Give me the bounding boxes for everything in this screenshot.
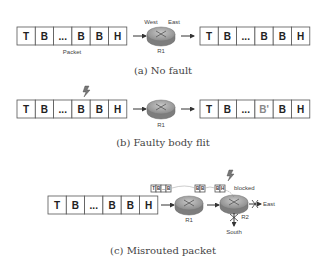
flit-label: H (297, 104, 304, 115)
flit-label: H (297, 31, 304, 42)
router-label-r1-c: R1 (185, 217, 193, 223)
buffer-3: BH (215, 185, 225, 192)
flit-label: B (108, 200, 115, 211)
buffer-link-2 (205, 187, 215, 188)
flit-label: H (114, 31, 121, 42)
flit-label: H (145, 200, 152, 211)
west-label: West (144, 19, 158, 25)
flit-label: B (96, 104, 103, 115)
packet-a-output: TB...BBH (200, 27, 310, 45)
router-label-r1-a: R1 (157, 48, 165, 54)
panel-b: TB...BBH R1 TB...B'BH (b) Faulty body fl… (17, 86, 310, 148)
east-label-c: East (263, 201, 275, 207)
south-label: South (226, 229, 242, 235)
flit-label: B (224, 31, 231, 42)
flit-label: B' (259, 104, 269, 115)
flit-label: B (77, 31, 84, 42)
packet-label: Packet (63, 49, 82, 55)
flit-label: B (279, 31, 286, 42)
router-r1-a (147, 27, 175, 46)
flit-label: B (77, 104, 84, 115)
flit-label: T (23, 31, 29, 42)
router-label-r2-c: R2 (241, 214, 249, 220)
east-label: East (168, 19, 180, 25)
flit-label: T (23, 104, 29, 115)
flit-label: B (96, 31, 103, 42)
flit-label: ... (242, 31, 251, 42)
flit-label: B (260, 31, 267, 42)
blocked-label: blocked (234, 185, 255, 191)
packet-a-input: TB...BBH (17, 27, 127, 45)
buffer-label: .. (162, 186, 165, 191)
flit-label: H (114, 104, 121, 115)
router-r1-c (175, 196, 203, 215)
flit-label: ... (90, 200, 99, 211)
flit-label: T (206, 104, 212, 115)
packet-b-output: TB...B'BH (200, 100, 310, 118)
flit-label: T (206, 31, 212, 42)
flit-label: B (41, 31, 48, 42)
flit-label: ... (242, 104, 251, 115)
caption-c: (c) Misrouted packet (110, 245, 216, 256)
buffer-label: H (221, 186, 224, 191)
buffer-2: BB (195, 185, 205, 192)
router-label-r1-b: R1 (157, 122, 165, 128)
diagram-canvas: TB...BBH Packet West East R1 TB...BBH (a… (0, 0, 326, 263)
buffer-link-1 (172, 186, 195, 188)
flit-label: B (72, 200, 79, 211)
caption-a: (a) No fault (134, 65, 192, 76)
flit-label: B (224, 104, 231, 115)
buffer-1: TB..B (151, 185, 171, 192)
panel-a: TB...BBH Packet West East R1 TB...BBH (a… (17, 19, 310, 76)
lightning-icon-c (227, 170, 234, 181)
caption-b: (b) Faulty body flit (116, 137, 210, 148)
panel-c: TB...BBH R1 R2 TB..B BB BH blocked East … (48, 170, 275, 256)
flit-label: ... (59, 104, 68, 115)
router-r1-b (147, 100, 175, 119)
flit-label: T (54, 200, 60, 211)
flit-label: ... (59, 31, 68, 42)
lightning-icon (83, 86, 90, 97)
flit-label: B (127, 200, 134, 211)
buffer-label: T (152, 186, 155, 191)
flit-label: B (279, 104, 286, 115)
router-r2-c (220, 195, 248, 214)
packet-c-input: TB...BBH (48, 196, 158, 214)
flit-label: B (41, 104, 48, 115)
packet-b-input: TB...BBH (17, 100, 127, 118)
